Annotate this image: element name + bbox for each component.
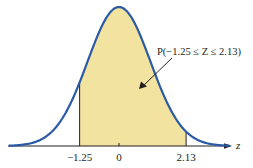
shaded-probability-region [80,7,186,146]
axis-variable-label: z [235,139,241,151]
normal-distribution-diagram: z −1.25 0 2.13 P(−1.25 ≤ Z ≤ 2.13) [0,0,253,168]
tick-label: 0 [116,151,122,163]
tick-label: −1.25 [67,151,93,163]
tick-label: 2.13 [176,151,196,163]
probability-annotation: P(−1.25 ≤ Z ≤ 2.13) [157,46,241,58]
